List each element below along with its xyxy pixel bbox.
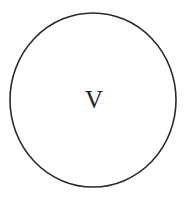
diagram-canvas: V bbox=[0, 0, 190, 197]
node-label: V bbox=[85, 86, 103, 113]
